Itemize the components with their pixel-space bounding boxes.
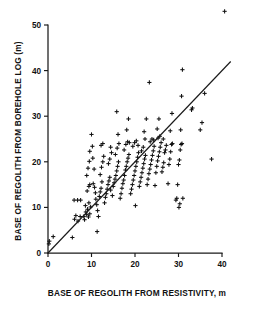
data-point-marker bbox=[107, 179, 111, 183]
data-point-marker bbox=[177, 205, 181, 209]
data-point-marker bbox=[158, 145, 162, 149]
data-point-marker bbox=[113, 152, 117, 156]
data-point-marker bbox=[143, 153, 147, 157]
data-point-marker bbox=[87, 159, 91, 163]
data-point-marker bbox=[169, 142, 173, 146]
data-point-marker bbox=[161, 165, 165, 169]
data-point-marker bbox=[142, 130, 146, 134]
data-point-marker bbox=[100, 180, 104, 184]
data-point-marker bbox=[108, 175, 112, 179]
data-point-marker bbox=[102, 201, 106, 205]
data-point-marker bbox=[140, 171, 144, 175]
data-point-marker bbox=[133, 203, 137, 207]
one-to-one-reference-line bbox=[48, 61, 231, 253]
x-tick-label: 0 bbox=[46, 260, 51, 269]
data-point-marker bbox=[103, 195, 107, 199]
data-point-marker bbox=[178, 148, 182, 152]
data-point-marker bbox=[74, 214, 78, 218]
data-point-marker bbox=[150, 153, 154, 157]
data-point-marker bbox=[176, 183, 180, 187]
data-point-marker bbox=[179, 94, 183, 98]
data-point-marker bbox=[168, 129, 172, 133]
data-point-marker bbox=[124, 164, 128, 168]
data-point-marker bbox=[180, 141, 184, 145]
data-point-marker bbox=[117, 141, 121, 145]
data-point-marker bbox=[145, 183, 149, 187]
data-point-marker bbox=[101, 160, 105, 164]
data-point-marker bbox=[164, 143, 168, 147]
data-point-marker bbox=[118, 196, 122, 200]
data-point-marker bbox=[116, 132, 120, 136]
data-point-marker bbox=[108, 157, 112, 161]
data-point-marker bbox=[51, 234, 55, 238]
data-point-marker bbox=[200, 120, 204, 124]
x-tick-label: 30 bbox=[174, 260, 183, 269]
data-point-marker bbox=[170, 111, 174, 115]
data-point-marker bbox=[178, 202, 182, 206]
data-point-marker bbox=[161, 137, 165, 141]
data-point-marker bbox=[114, 173, 118, 177]
x-tick-label: 40 bbox=[218, 260, 227, 269]
data-point-marker bbox=[121, 182, 125, 186]
data-point-marker bbox=[156, 154, 160, 158]
data-point-marker bbox=[89, 132, 93, 136]
data-point-marker bbox=[176, 162, 180, 166]
data-point-marker bbox=[95, 229, 99, 233]
data-point-marker bbox=[106, 183, 110, 187]
data-point-marker bbox=[209, 157, 213, 161]
x-tick-label: 10 bbox=[87, 260, 96, 269]
data-point-marker bbox=[198, 128, 202, 132]
data-point-marker bbox=[98, 190, 102, 194]
data-point-marker bbox=[180, 68, 184, 72]
data-point-marker bbox=[177, 158, 181, 162]
data-point-marker bbox=[110, 193, 114, 197]
data-point-marker bbox=[138, 180, 142, 184]
data-point-marker bbox=[141, 145, 145, 149]
data-point-marker bbox=[169, 150, 173, 154]
data-point-marker bbox=[162, 151, 166, 155]
data-point-marker bbox=[115, 169, 119, 173]
y-tick-label: 40 bbox=[32, 67, 41, 76]
data-point-marker bbox=[126, 156, 130, 160]
data-point-marker bbox=[148, 167, 152, 171]
data-point-marker bbox=[126, 117, 130, 121]
data-point-marker bbox=[88, 149, 92, 153]
data-point-marker bbox=[139, 175, 143, 179]
data-point-marker bbox=[109, 151, 113, 155]
data-point-marker bbox=[141, 166, 145, 170]
data-point-marker bbox=[168, 157, 172, 161]
data-point-marker bbox=[93, 191, 97, 195]
data-point-marker bbox=[155, 164, 159, 168]
outlier-point-marker bbox=[223, 9, 227, 13]
data-point-marker bbox=[181, 196, 185, 200]
data-point-marker bbox=[85, 173, 89, 177]
y-axis-title: BASE OF REGOLITH FROM BOREHOLE LOG (m) bbox=[13, 41, 23, 240]
data-point-marker bbox=[157, 150, 161, 154]
data-point-marker bbox=[122, 148, 126, 152]
data-point-marker bbox=[109, 145, 113, 149]
data-point-marker bbox=[142, 162, 146, 166]
y-tick-label: 20 bbox=[32, 158, 41, 167]
data-point-marker bbox=[92, 167, 96, 171]
data-point-marker bbox=[179, 128, 183, 132]
data-point-marker bbox=[98, 172, 102, 176]
data-point-marker bbox=[144, 117, 148, 121]
data-point-marker bbox=[147, 80, 151, 84]
scatter-plot-figure: 01020304050 010203040 BASE OF REGOLITH F… bbox=[0, 0, 260, 311]
data-point-marker bbox=[83, 203, 87, 207]
data-point-marker bbox=[179, 142, 183, 146]
data-point-marker bbox=[142, 157, 146, 161]
outlier-marker-layer bbox=[223, 9, 227, 13]
y-tick-label: 0 bbox=[37, 249, 42, 258]
data-point-marker bbox=[147, 172, 151, 176]
data-point-marker bbox=[91, 182, 95, 186]
data-point-marker bbox=[162, 161, 166, 165]
data-point-marker bbox=[163, 148, 167, 152]
data-point-marker bbox=[96, 214, 100, 218]
data-point-marker bbox=[90, 144, 94, 148]
data-point-marker bbox=[151, 149, 155, 153]
data-point-marker bbox=[82, 218, 86, 222]
data-point-marker bbox=[133, 169, 137, 173]
data-point-marker bbox=[154, 171, 158, 175]
data-point-marker bbox=[106, 162, 110, 166]
